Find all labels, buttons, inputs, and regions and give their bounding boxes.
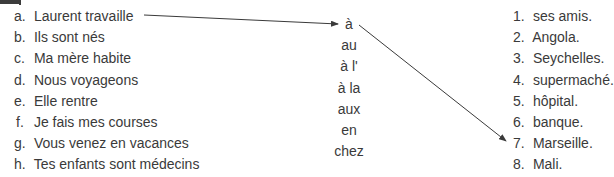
item-text: supermaché. — [533, 72, 614, 88]
subject-item-b: b. Ils sont nés — [14, 27, 199, 48]
item-number: 7. — [513, 133, 529, 154]
place-item-4: 4. supermaché. — [513, 70, 614, 91]
item-number: 1. — [513, 6, 529, 27]
place-item-7: 7. Marseille. — [513, 133, 614, 154]
subject-item-a: a. Laurent travaille — [14, 6, 199, 27]
subject-item-f: f. Je fais mes courses — [14, 112, 199, 133]
subject-item-c: c. Ma mère habite — [14, 48, 199, 69]
item-letter: c. — [14, 48, 30, 69]
place-item-2: 2. Angola. — [513, 27, 614, 48]
subject-item-d: d. Nous voyageons — [14, 70, 199, 91]
preposition-item: à — [324, 14, 374, 35]
preposition-item: en — [324, 120, 374, 141]
preposition-item: aux — [324, 99, 374, 120]
item-letter: b. — [14, 27, 30, 48]
preposition-item: chez — [324, 141, 374, 162]
item-text: Laurent travaille — [34, 8, 134, 24]
item-letter: e. — [14, 91, 30, 112]
item-text: Elle rentre — [34, 93, 98, 109]
subjects-column: a. Laurent travaille b. Ils sont nés c. … — [14, 6, 199, 176]
item-text: Angola. — [532, 29, 579, 45]
place-item-6: 6. banque. — [513, 112, 614, 133]
place-item-8: 8. Mali. — [513, 154, 614, 175]
item-text: Ils sont nés — [34, 29, 105, 45]
place-item-5: 5. hôpital. — [513, 91, 614, 112]
item-text: Ma mère habite — [34, 50, 131, 66]
subject-item-e: e. Elle rentre — [14, 91, 199, 112]
item-letter: h. — [14, 154, 30, 175]
subject-item-h: h. Tes enfants sont médecins — [14, 154, 199, 175]
item-text: Seychelles. — [533, 50, 605, 66]
place-item-3: 3. Seychelles. — [513, 48, 614, 69]
item-text: Marseille. — [533, 135, 593, 151]
prepositions-column: à au à l' à la aux en chez — [324, 14, 374, 162]
item-number: 3. — [513, 48, 529, 69]
item-text: Tes enfants sont médecins — [34, 156, 200, 172]
item-text: Vous venez en vacances — [34, 135, 189, 151]
item-letter: f. — [14, 112, 30, 133]
item-number: 4. — [513, 70, 529, 91]
place-item-1: 1. ses amis. — [513, 6, 614, 27]
preposition-item: au — [324, 35, 374, 56]
item-text: Mali. — [533, 156, 563, 172]
item-number: 8. — [513, 154, 529, 175]
item-letter: g. — [14, 133, 30, 154]
preposition-item: à l' — [324, 56, 374, 77]
item-text: Nous voyageons — [34, 72, 138, 88]
item-text: banque. — [533, 114, 584, 130]
item-text: hôpital. — [533, 93, 578, 109]
places-column: 1. ses amis. 2. Angola. 3. Seychelles. 4… — [513, 6, 614, 176]
item-letter: d. — [14, 70, 30, 91]
item-letter: a. — [14, 6, 30, 27]
preposition-item: à la — [324, 78, 374, 99]
item-number: 2. — [513, 27, 529, 48]
item-text: Je fais mes courses — [34, 114, 158, 130]
arrow-a-preposition-to-7 — [359, 25, 506, 141]
item-number: 6. — [513, 112, 529, 133]
subject-item-g: g. Vous venez en vacances — [14, 133, 199, 154]
item-text: ses amis. — [533, 8, 592, 24]
item-number: 5. — [513, 91, 529, 112]
